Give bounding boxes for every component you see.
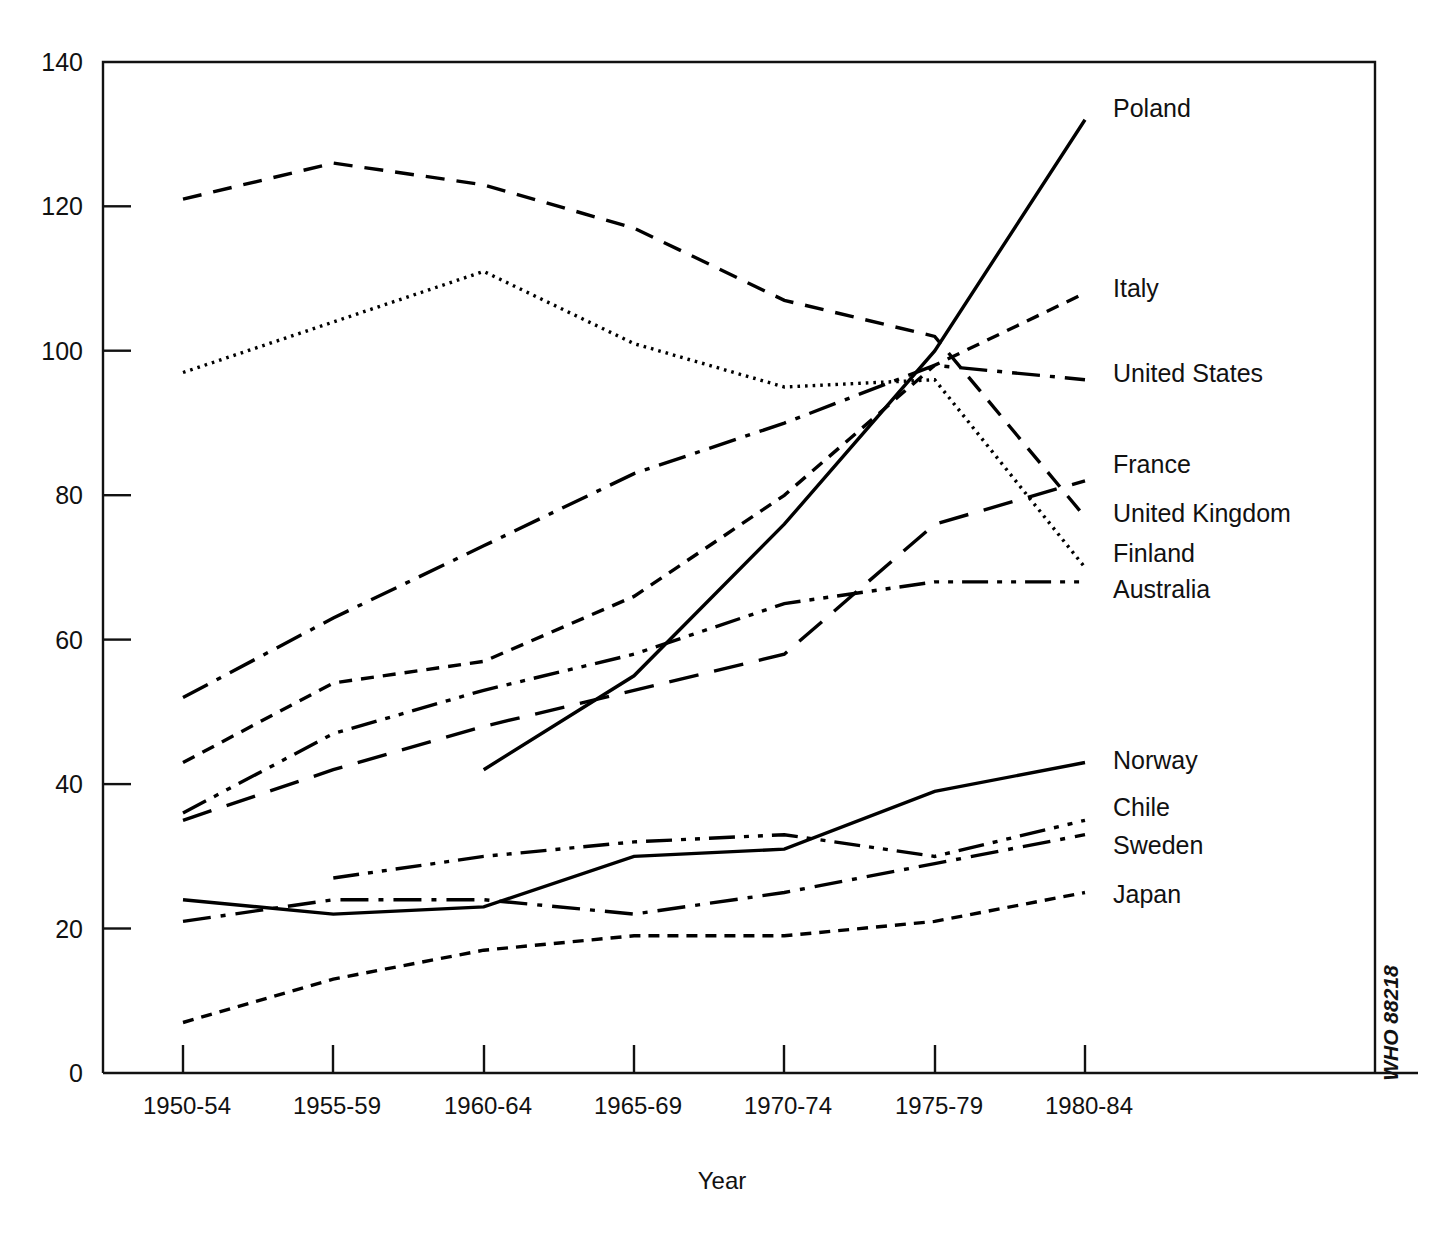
- series-label-italy: Italy: [1113, 274, 1159, 302]
- y-tick-label-120: 120: [41, 192, 83, 220]
- plot-frame: [103, 62, 1418, 1073]
- series-line-finland: [183, 271, 1085, 567]
- series-line-australia: [183, 582, 1085, 813]
- chart-figure: 0 20 40 60 80 100 120 140 1950-54 1955-5…: [0, 0, 1434, 1233]
- series-label-united-kingdom: United Kingdom: [1113, 499, 1291, 527]
- series-label-group: PolandItalyUnited StatesFranceUnited Kin…: [1113, 94, 1291, 908]
- y-tick-label-40: 40: [55, 770, 83, 798]
- series-line-norway: [183, 763, 1085, 915]
- series-label-chile: Chile: [1113, 793, 1170, 821]
- series-line-italy: [183, 293, 1085, 762]
- axis-box: [103, 62, 1418, 1073]
- series-label-norway: Norway: [1113, 746, 1198, 774]
- y-tick-label-100: 100: [41, 337, 83, 365]
- x-tick-label-1960-64: 1960-64: [444, 1092, 532, 1119]
- x-axis-title: Year: [698, 1167, 747, 1194]
- x-tick-label-1975-79: 1975-79: [895, 1092, 983, 1119]
- series-label-australia: Australia: [1113, 575, 1210, 603]
- y-tick-label-20: 20: [55, 915, 83, 943]
- series-label-sweden: Sweden: [1113, 831, 1203, 859]
- x-tick-label-1980-84: 1980-84: [1045, 1092, 1133, 1119]
- series-label-united-states: United States: [1113, 359, 1263, 387]
- series-line-poland: [484, 120, 1085, 770]
- y-tick-label-80: 80: [55, 481, 83, 509]
- line-chart: 0 20 40 60 80 100 120 140 1950-54 1955-5…: [0, 0, 1434, 1233]
- series-label-japan: Japan: [1113, 880, 1181, 908]
- series-line-france: [183, 481, 1085, 821]
- series-line-united-kingdom: [183, 163, 1085, 517]
- who-credit-label: WHO 88218: [1379, 965, 1402, 1081]
- data-series-group: [183, 120, 1085, 1023]
- series-label-poland: Poland: [1113, 94, 1191, 122]
- x-tick-label-1965-69: 1965-69: [594, 1092, 682, 1119]
- x-tick-labels: 1950-54 1955-59 1960-64 1965-69 1970-74 …: [143, 1092, 1133, 1119]
- y-tick-marks: [103, 206, 131, 928]
- y-tick-labels: 0 20 40 60 80 100 120 140: [41, 48, 83, 1087]
- series-label-france: France: [1113, 450, 1191, 478]
- y-tick-label-140: 140: [41, 48, 83, 76]
- series-label-finland: Finland: [1113, 539, 1195, 567]
- y-tick-label-60: 60: [55, 626, 83, 654]
- x-tick-label-1955-59: 1955-59: [293, 1092, 381, 1119]
- series-line-chile: [333, 820, 1085, 878]
- x-tick-marks: [183, 1045, 1085, 1073]
- x-tick-label-1950-54: 1950-54: [143, 1092, 231, 1119]
- series-line-united-states: [183, 365, 1085, 697]
- y-tick-label-0: 0: [69, 1059, 83, 1087]
- series-line-sweden: [183, 835, 1085, 922]
- x-tick-label-1970-74: 1970-74: [744, 1092, 832, 1119]
